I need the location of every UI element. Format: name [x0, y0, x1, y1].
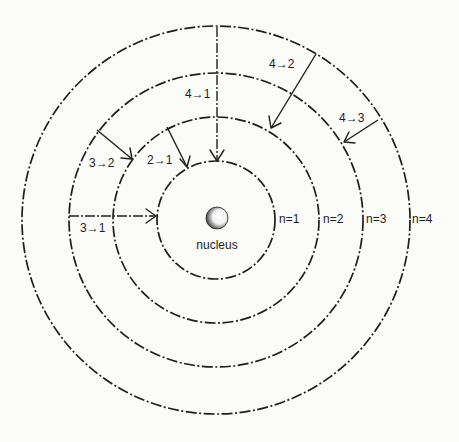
orbit-label-n2: n=2: [323, 212, 344, 226]
orbit-label-n1: n=1: [279, 212, 300, 226]
orbit-label-n4: n=4: [412, 212, 433, 226]
transition-4-to-3: 4→3: [339, 111, 378, 143]
transition-label: 4→1: [185, 87, 211, 101]
transition-3-to-2: 3→2: [89, 130, 132, 170]
transition-label: 3→1: [80, 221, 106, 235]
nucleus: nucleus: [196, 207, 237, 252]
transition-2-to-1: 2→1: [147, 127, 190, 167]
transition-label: 4→2: [269, 57, 295, 71]
transition-line: [97, 130, 132, 159]
bohr-model-diagram: nucleus n=1 n=2 n=3 n=4 4→1 4→2 4→3: [0, 0, 459, 442]
nucleus-sphere: [206, 207, 228, 229]
transition-label: 3→2: [89, 156, 115, 170]
orbit-label-n3: n=3: [366, 212, 387, 226]
transition-label: 4→3: [339, 111, 365, 125]
nucleus-label: nucleus: [196, 238, 237, 252]
transition-4-to-2: 4→2: [269, 54, 316, 128]
transitions: 4→1 4→2 4→3 3→2 2→1: [69, 27, 378, 235]
transition-label: 2→1: [147, 153, 173, 167]
transition-4-to-1: 4→1: [185, 27, 224, 161]
